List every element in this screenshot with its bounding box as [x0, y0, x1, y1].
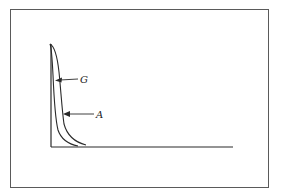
curve-a [50, 44, 86, 145]
decay-curves-plot: G A [0, 0, 282, 193]
arrow-head-g-icon [55, 78, 62, 83]
curve-g [50, 44, 78, 146]
arrow-head-a-icon [63, 111, 70, 117]
arrow-g [60, 79, 78, 80]
label-a: A [95, 109, 103, 120]
label-g: G [80, 74, 88, 85]
